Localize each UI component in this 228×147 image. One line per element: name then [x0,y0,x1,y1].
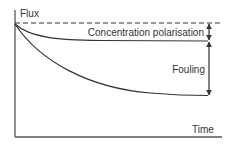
y-axis-label: Flux [20,8,39,19]
x-axis-label: Time [192,124,214,135]
flux-decline-diagram: Flux Time Concentration polarisation Fou… [0,0,228,147]
concentration-polarisation-label: Concentration polarisation [88,27,204,38]
fouling-label: Fouling [172,64,205,75]
